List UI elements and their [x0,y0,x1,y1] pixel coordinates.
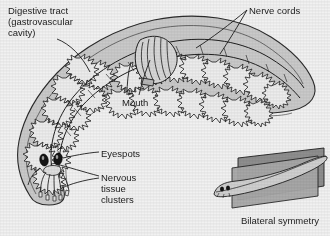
inset-eyespot-left [220,186,224,191]
label-digestive-tract: Digestive tract (gastrovascular cavity) [8,5,73,38]
label-mouth: Mouth [122,97,148,108]
label-nerve-cords: Nerve cords [249,5,300,16]
label-nervous-tissue-clusters: Nervous tissue clusters [101,172,136,205]
bilateral-symmetry-inset [214,148,327,208]
label-bilateral-symmetry: Bilateral symmetry [241,215,319,226]
leader-eyespots [63,152,99,158]
label-eyespots: Eyespots [101,148,140,159]
inset-eyespot-right [226,185,230,190]
